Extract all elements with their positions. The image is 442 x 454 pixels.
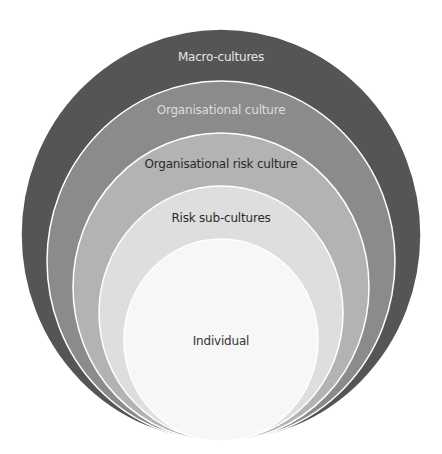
label-organisational-culture: Organisational culture (0, 103, 442, 117)
nested-circles-diagram (0, 0, 442, 454)
label-individual: Individual (0, 334, 442, 348)
label-macro-cultures: Macro-cultures (0, 50, 442, 64)
label-risk-sub-cultures: Risk sub-cultures (0, 211, 442, 225)
label-organisational-risk-culture: Organisational risk culture (0, 157, 442, 171)
